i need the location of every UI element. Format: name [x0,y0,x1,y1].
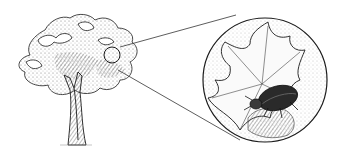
tree-beetle-illustration [0,0,344,154]
magnified-view [200,15,330,145]
illustration [0,0,344,154]
leaf-damage [248,108,294,138]
